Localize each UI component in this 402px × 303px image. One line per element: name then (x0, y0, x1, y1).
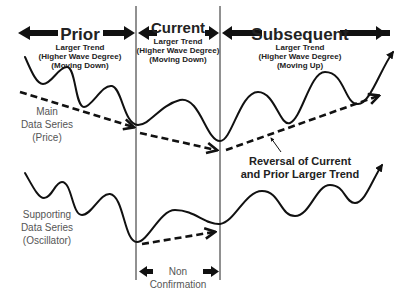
section-subtitle-subsequent-1: Larger Trend (276, 43, 325, 52)
diagram: Prior Larger Trend (Higher Wave Degree) … (0, 0, 402, 303)
supporting-series-label-2: Data Series (21, 222, 73, 233)
main-series-label-3: (Price) (32, 132, 61, 143)
section-subtitle-prior-1: Larger Trend (56, 43, 105, 52)
section-title-current: Current (151, 19, 205, 36)
oscillator-divergence-line (142, 232, 214, 244)
price-current-trend-line (140, 133, 216, 150)
non-confirmation-label-2: Confirmation (150, 279, 207, 290)
section-subtitle-subsequent-3: (Moving Up) (277, 61, 324, 70)
reversal-label-1: Reversal of Current (249, 155, 351, 167)
section-title-subsequent: Subsequent (251, 25, 349, 44)
section-subtitle-prior-3: (Moving Down) (51, 61, 109, 70)
reversal-pointer-arrow (271, 138, 281, 152)
section-subtitle-current-1: Larger Trend (154, 37, 203, 46)
supporting-series-label-1: Supporting (23, 209, 71, 220)
section-subtitle-current-2: (Higher Wave Degree) (137, 46, 220, 55)
supporting-series-label-3: (Oscillator) (23, 235, 71, 246)
section-subtitle-current-3: (Moving Down) (149, 55, 207, 64)
non-confirmation-label-1: Non (169, 266, 187, 277)
reversal-label-2: and Prior Larger Trend (241, 168, 360, 180)
main-series-label-2: Data Series (21, 119, 73, 130)
section-subtitle-subsequent-2: (Higher Wave Degree) (259, 52, 342, 61)
main-series-label-1: Main (36, 106, 58, 117)
section-subtitle-prior-2: (Higher Wave Degree) (39, 52, 122, 61)
section-title-prior: Prior (60, 25, 100, 44)
